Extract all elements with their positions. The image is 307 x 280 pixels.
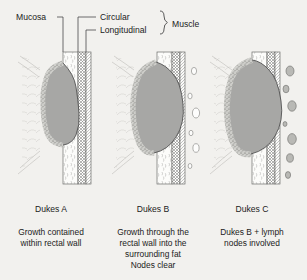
lymph-node-involved — [288, 101, 296, 111]
lymph-node-involved — [283, 122, 287, 127]
stage-title-b: Dukes B — [137, 204, 170, 214]
caption-b-line-1: Growth through the — [117, 227, 189, 237]
label-longitudinal: Longitudinal — [100, 25, 146, 35]
lymph-node-involved — [283, 85, 289, 93]
label-circular: Circular — [100, 12, 130, 22]
label-muscle: Muscle — [172, 19, 199, 29]
stage-title-c: Dukes C — [236, 204, 269, 214]
label-mucosa: Mucosa — [16, 12, 46, 22]
caption-b-line-4: Nodes clear — [131, 260, 176, 270]
caption-c-line-2: nodes involved — [224, 238, 280, 248]
dukes-staging-figure: Mucosa Circular Longitudinal Muscle Duke… — [0, 0, 307, 280]
lymph-node-clear — [193, 144, 199, 153]
lymph-node-involved — [286, 66, 294, 76]
lymph-node-involved — [285, 172, 290, 179]
lymph-node-clear — [188, 164, 192, 169]
lymph-node-involved — [288, 134, 297, 145]
caption-b-line-2: rectal wall into the — [119, 238, 186, 248]
stage-title-a: Dukes A — [35, 204, 67, 214]
longitudinal-muscle-layer-a — [86, 52, 91, 184]
lymph-node-clear — [192, 108, 199, 118]
lymph-node-clear — [189, 130, 193, 135]
caption-a-line-1: Growth contained — [18, 227, 84, 237]
caption-a-line-2: within rectal wall — [20, 238, 82, 248]
caption-c-line-1: Dukes B + lymph — [220, 227, 284, 237]
lymph-node-clear — [188, 93, 192, 99]
lymph-node-clear — [191, 67, 196, 74]
caption-b-line-3: surrounding fat — [125, 249, 182, 259]
lymph-node-involved — [287, 154, 294, 162]
